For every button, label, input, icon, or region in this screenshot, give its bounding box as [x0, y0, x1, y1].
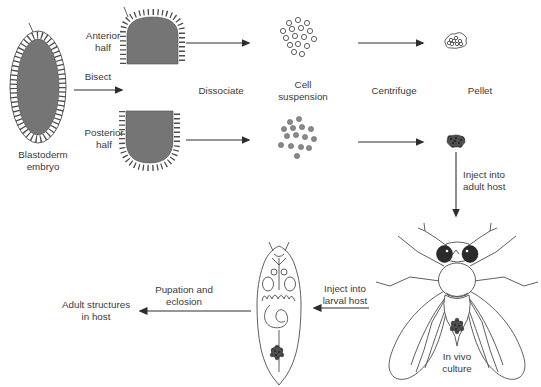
- label-inject-larval-host: Inject into larval host: [323, 283, 368, 307]
- diagram-artwork: [0, 0, 541, 387]
- label-in-vivo-culture: In vivo culture: [442, 351, 471, 375]
- fly-right-wing: [465, 289, 525, 379]
- label-posterior-half: Posterior half: [84, 127, 123, 151]
- fly-left-antenna: [418, 223, 447, 246]
- larva-imaginal-disc-right: [285, 277, 296, 291]
- label-pupation-eclosion: Pupation and eclosion: [155, 284, 213, 308]
- pellet-anterior: [445, 33, 467, 49]
- label-anterior-half: Anterior half: [86, 30, 120, 54]
- larva-imaginal-disc-left: [263, 277, 274, 291]
- fly-left-eye: [437, 246, 453, 263]
- label-dissociate: Dissociate: [198, 85, 243, 97]
- fly-right-eye: [462, 246, 478, 263]
- fly-left-wing: [389, 289, 449, 379]
- embryo-micropyle: [29, 23, 33, 32]
- label-blastoderm-embryo: Blastoderm embryo: [18, 149, 68, 173]
- label-adult-structures: Adult structures in host: [62, 299, 130, 323]
- anterior-spike: [124, 7, 128, 17]
- fly-right-antenna: [468, 223, 497, 246]
- figure-canvas: Blastoderm embryo Anterior half Bisect P…: [0, 0, 541, 387]
- larva-illustration: [257, 242, 301, 385]
- cell-suspension-anterior: [280, 17, 316, 56]
- anterior-half-illustration: [123, 7, 182, 64]
- fly-left-mid-leg: [376, 277, 440, 286]
- pellet-posterior: [447, 135, 465, 147]
- label-pellet: Pellet: [468, 85, 493, 97]
- label-bisect: Bisect: [85, 71, 112, 83]
- fly-right-mid-leg: [474, 277, 538, 286]
- label-inject-adult-host: Inject into adult host: [463, 169, 505, 193]
- blastoderm-embryo-illustration: [10, 23, 66, 143]
- posterior-half-illustration: [122, 111, 177, 168]
- label-centrifuge: Centrifuge: [371, 85, 416, 97]
- fly-thorax: [439, 263, 476, 297]
- cell-suspension-posterior: [278, 116, 316, 158]
- label-cell-suspension: Cell suspension: [278, 79, 328, 103]
